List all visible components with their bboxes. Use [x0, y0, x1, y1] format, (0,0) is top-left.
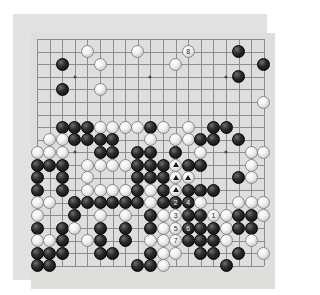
stone-black[interactable]: [131, 159, 144, 172]
stone-white[interactable]: [220, 222, 233, 235]
stone-black[interactable]: [169, 146, 182, 159]
stone-white[interactable]: [43, 146, 56, 159]
stone-white[interactable]: [182, 133, 195, 146]
stone-black[interactable]: [131, 196, 144, 209]
stone-black[interactable]: [144, 146, 157, 159]
stone-white[interactable]: [131, 121, 144, 134]
stone-white[interactable]: [157, 259, 170, 272]
stone-black[interactable]: [94, 196, 107, 209]
stone-black[interactable]: [31, 259, 44, 272]
stone-white[interactable]: [257, 196, 270, 209]
stone-white[interactable]: [119, 184, 132, 197]
stone-black[interactable]: [56, 234, 69, 247]
stone-white[interactable]: [56, 133, 69, 146]
stone-black[interactable]: [207, 121, 220, 134]
stone-black[interactable]: [131, 259, 144, 272]
stone-white[interactable]: [245, 159, 258, 172]
stone-white[interactable]: 3: [169, 209, 182, 222]
stone-black[interactable]: [94, 247, 107, 260]
stone-black[interactable]: [31, 247, 44, 260]
stone-white[interactable]: [169, 159, 182, 172]
stone-white[interactable]: [31, 209, 44, 222]
stone-black[interactable]: [81, 196, 94, 209]
stone-black[interactable]: [207, 133, 220, 146]
stone-black[interactable]: [106, 247, 119, 260]
stone-white[interactable]: [144, 184, 157, 197]
stone-white[interactable]: [144, 196, 157, 209]
stone-white[interactable]: [94, 121, 107, 134]
stone-black[interactable]: [94, 234, 107, 247]
stone-black[interactable]: [182, 184, 195, 197]
stone-white[interactable]: [245, 171, 258, 184]
stone-white[interactable]: [43, 196, 56, 209]
stone-white[interactable]: [169, 247, 182, 260]
stone-white[interactable]: [43, 234, 56, 247]
stone-black[interactable]: [232, 133, 245, 146]
stone-black[interactable]: [194, 247, 207, 260]
stone-white[interactable]: [31, 146, 44, 159]
stone-white[interactable]: [245, 146, 258, 159]
stone-black[interactable]: [220, 259, 233, 272]
stone-black[interactable]: [144, 259, 157, 272]
stone-black[interactable]: 2: [169, 196, 182, 209]
stone-white[interactable]: [68, 222, 81, 235]
stone-white[interactable]: [43, 133, 56, 146]
stone-white[interactable]: [169, 133, 182, 146]
stone-white[interactable]: [119, 121, 132, 134]
stone-black[interactable]: [207, 247, 220, 260]
go-board-surface[interactable]: 82431567: [31, 33, 275, 289]
stone-white[interactable]: [119, 159, 132, 172]
stone-white[interactable]: [31, 196, 44, 209]
stone-white[interactable]: [232, 196, 245, 209]
stone-white[interactable]: [169, 171, 182, 184]
stone-white[interactable]: [169, 184, 182, 197]
stone-white[interactable]: [157, 234, 170, 247]
stone-white[interactable]: [81, 184, 94, 197]
stone-black[interactable]: [144, 247, 157, 260]
stone-black[interactable]: [207, 222, 220, 235]
stone-black[interactable]: [119, 234, 132, 247]
stone-white[interactable]: [81, 159, 94, 172]
stone-white[interactable]: [81, 45, 94, 58]
stone-white[interactable]: [56, 146, 69, 159]
stone-white[interactable]: [81, 171, 94, 184]
stone-black[interactable]: [194, 184, 207, 197]
stone-black[interactable]: [182, 209, 195, 222]
stone-black[interactable]: [56, 222, 69, 235]
stone-black[interactable]: [232, 70, 245, 83]
stone-black[interactable]: [157, 171, 170, 184]
stone-black[interactable]: [232, 45, 245, 58]
stone-white[interactable]: [94, 159, 107, 172]
stone-black[interactable]: [31, 184, 44, 197]
stone-black[interactable]: [106, 146, 119, 159]
stone-black[interactable]: [232, 209, 245, 222]
stone-black[interactable]: 6: [182, 222, 195, 235]
stone-black[interactable]: [56, 121, 69, 134]
stone-white[interactable]: [245, 196, 258, 209]
stone-black[interactable]: [68, 121, 81, 134]
stone-white[interactable]: 1: [207, 209, 220, 222]
stone-black[interactable]: [68, 133, 81, 146]
stone-white[interactable]: [257, 209, 270, 222]
stone-black[interactable]: [131, 146, 144, 159]
stone-white[interactable]: [220, 234, 233, 247]
stone-white[interactable]: [106, 184, 119, 197]
stone-black[interactable]: [81, 121, 94, 134]
stone-white[interactable]: [257, 247, 270, 260]
stone-white[interactable]: [194, 146, 207, 159]
stone-white[interactable]: [106, 159, 119, 172]
stone-white[interactable]: [182, 121, 195, 134]
stone-black[interactable]: [144, 121, 157, 134]
stone-white[interactable]: 5: [169, 222, 182, 235]
stone-black[interactable]: [106, 196, 119, 209]
stone-black[interactable]: [182, 234, 195, 247]
stone-white[interactable]: [220, 209, 233, 222]
stone-white[interactable]: [157, 209, 170, 222]
stone-white[interactable]: 7: [169, 234, 182, 247]
stone-black[interactable]: [56, 58, 69, 71]
stone-black[interactable]: [245, 209, 258, 222]
stone-black[interactable]: [157, 184, 170, 197]
stone-black[interactable]: [119, 196, 132, 209]
stone-black[interactable]: [131, 171, 144, 184]
stone-white[interactable]: [157, 247, 170, 260]
